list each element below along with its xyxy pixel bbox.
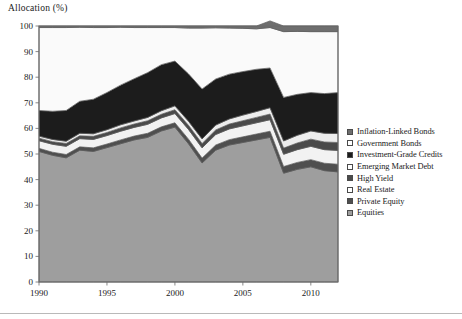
legend-item-label: High Yield	[357, 174, 393, 183]
legend-item[interactable]: Private Equity	[347, 196, 460, 208]
x-tick-label: 1995	[98, 288, 117, 298]
legend-item-label: Equities	[357, 208, 384, 217]
legend-item[interactable]: Inflation-Linked Bonds	[347, 126, 460, 138]
x-tick-label: 2005	[234, 288, 253, 298]
legend-item[interactable]: Real Estate	[347, 184, 460, 196]
x-tick-label: 2000	[166, 288, 185, 298]
legend-item[interactable]: Investment-Grade Credits	[347, 149, 460, 161]
y-tick-label: 70	[24, 98, 34, 108]
y-tick-label: 30	[24, 200, 34, 210]
chart-legend: Inflation-Linked BondsGovernment BondsIn…	[347, 126, 460, 219]
legend-item[interactable]: Equities	[347, 207, 460, 219]
y-tick-label: 80	[24, 72, 34, 82]
legend-swatch-icon	[347, 152, 353, 158]
y-tick-label: 50	[24, 149, 34, 159]
legend-item[interactable]: Government Bonds	[347, 138, 460, 150]
y-tick-label: 10	[24, 251, 34, 261]
y-tick-label: 20	[24, 226, 34, 236]
legend-swatch-icon	[347, 175, 353, 181]
legend-item[interactable]: Emerging Market Debt	[347, 161, 460, 173]
y-tick-label: 0	[29, 277, 34, 287]
y-tick-label: 40	[24, 175, 34, 185]
legend-swatch-icon	[347, 187, 353, 193]
footer-divider	[0, 313, 462, 314]
y-tick-label: 60	[24, 123, 34, 133]
legend-item-label: Government Bonds	[357, 139, 422, 148]
legend-item[interactable]: High Yield	[347, 172, 460, 184]
y-tick-label: 100	[20, 21, 34, 31]
x-tick-label: 2010	[302, 288, 321, 298]
legend-swatch-icon	[347, 210, 353, 216]
legend-item-label: Real Estate	[357, 185, 394, 194]
legend-item-label: Investment-Grade Credits	[357, 150, 443, 159]
legend-swatch-icon	[347, 140, 353, 146]
legend-swatch-icon	[347, 198, 353, 204]
legend-swatch-icon	[347, 164, 353, 170]
legend-item-label: Emerging Market Debt	[357, 162, 434, 171]
x-tick-label: 1990	[30, 288, 49, 298]
legend-item-label: Inflation-Linked Bonds	[357, 127, 435, 136]
legend-swatch-icon	[347, 129, 353, 135]
chart-page: Allocation (%) 0102030405060708090100199…	[0, 0, 462, 319]
y-tick-label: 90	[24, 47, 34, 57]
legend-item-label: Private Equity	[357, 197, 404, 206]
